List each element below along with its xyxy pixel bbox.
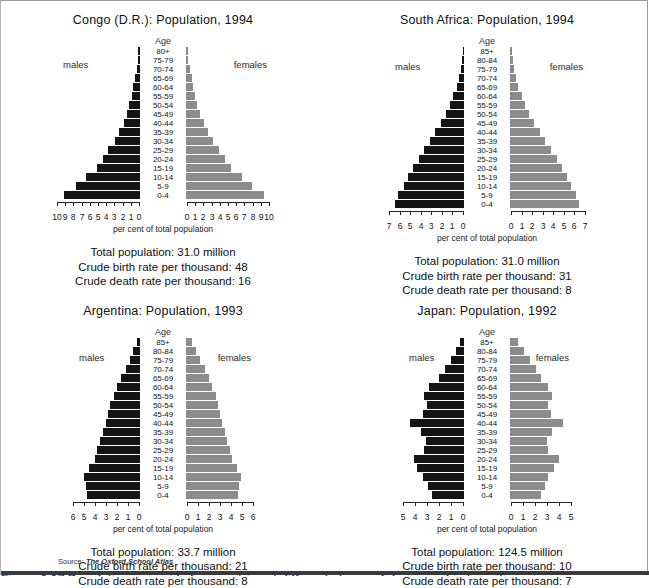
panel-title: Congo (D.R.): Population, 1994: [73, 13, 253, 27]
figure-caption: Figure 1.17 Population pyramids for coun…: [1, 572, 649, 576]
female-bar: [186, 419, 222, 427]
male-bar: [97, 164, 140, 172]
axis-tick-label: 5: [562, 221, 567, 231]
age-group-label: 50-54: [470, 401, 504, 410]
age-group-label: 65-69: [146, 74, 180, 83]
female-bar: [510, 491, 541, 499]
female-half: [186, 374, 252, 383]
female-bar: [510, 173, 567, 181]
female-bar: [186, 110, 200, 118]
male-bar: [133, 83, 140, 91]
axis-tick: [95, 502, 96, 506]
pyramid-row: 55-59: [403, 392, 571, 401]
male-bar: [441, 119, 464, 127]
female-half: [186, 92, 268, 101]
age-group-label: 60-64: [470, 92, 504, 101]
pyramid-row: 0-4: [57, 191, 269, 200]
male-bar: [417, 464, 464, 472]
pyramid-row: 15-19: [57, 164, 269, 173]
pyramid-row: 40-44: [57, 119, 269, 128]
male-half: [58, 74, 140, 83]
axis-tick: [73, 502, 74, 506]
axis-tick-label: 5: [401, 512, 406, 522]
male-bar: [414, 455, 464, 463]
pyramid-body: 85+80-8475-7970-7465-6960-6455-5950-5445…: [403, 338, 571, 500]
male-half: [74, 374, 140, 383]
female-bar: [186, 146, 219, 154]
female-bar: [186, 155, 225, 163]
x-axis: 543210012345per cent of total population: [403, 500, 571, 534]
male-bar: [463, 47, 464, 55]
male-bar: [445, 365, 464, 373]
age-group-label: 35-39: [146, 428, 180, 437]
pyramid-row: 30-34: [403, 437, 571, 446]
age-group-label: 30-34: [470, 146, 504, 155]
pyramid-row: 45-49: [57, 110, 269, 119]
male-bar: [424, 446, 464, 454]
male-half: [390, 164, 464, 173]
male-half: [74, 365, 140, 374]
age-group-label: 85+: [470, 338, 504, 347]
axis-tick: [553, 211, 554, 215]
male-bar: [426, 437, 464, 445]
age-group-label: 80-84: [146, 347, 180, 356]
axis-tick-label: 2: [530, 221, 535, 231]
axis-tick-label: 4: [218, 212, 223, 222]
axis-tick: [543, 211, 544, 215]
stats-block: Total population: 31.0 millionCrude birt…: [402, 254, 571, 298]
pyramid-row: 35-39: [57, 128, 269, 137]
male-half: [74, 410, 140, 419]
pyramid-row: 5-9: [57, 182, 269, 191]
axis-tick-label: 5: [82, 512, 87, 522]
female-bar: [186, 74, 192, 82]
female-half: [186, 383, 252, 392]
axis-tick: [559, 502, 560, 506]
panel-title: Argentina: Population, 1993: [83, 304, 243, 318]
male-bar: [395, 200, 464, 208]
age-group-label: 70-74: [146, 365, 180, 374]
male-half: [404, 401, 464, 410]
male-bar: [423, 473, 464, 481]
male-half: [390, 155, 464, 164]
female-half: [186, 83, 268, 92]
axis-tick: [253, 202, 254, 206]
female-half: [186, 491, 252, 500]
axis-tick: [220, 502, 221, 506]
axis-tick: [511, 211, 512, 215]
female-bar: [186, 446, 230, 454]
female-bar: [186, 137, 213, 145]
male-bar: [419, 155, 464, 163]
male-bar: [64, 191, 140, 199]
male-bar: [86, 482, 140, 490]
axis-tick-label: 3: [210, 212, 215, 222]
axis-tick-label: 5: [226, 212, 231, 222]
male-half: [58, 155, 140, 164]
males-label: males: [409, 352, 434, 363]
pyramid-row: 50-54: [73, 401, 253, 410]
female-half: [510, 47, 584, 56]
axis-tick-label: 9: [63, 212, 68, 222]
axis-tick: [131, 202, 132, 206]
female-half: [510, 110, 584, 119]
source-note: Source: The Oxford School Atlas: [58, 557, 173, 566]
female-half: [510, 83, 584, 92]
pyramid-row: 85+: [403, 338, 571, 347]
female-half: [510, 137, 584, 146]
male-bar: [108, 146, 140, 154]
axis-tick-label: 0: [137, 512, 142, 522]
age-group-label: 0-4: [146, 191, 180, 200]
male-half: [58, 92, 140, 101]
axis-tick: [73, 202, 74, 206]
age-group-label: 45-49: [146, 110, 180, 119]
age-group-label: 85+: [470, 47, 504, 56]
male-bar: [135, 74, 140, 82]
x-axis: 109876543210012345678910per cent of tota…: [57, 200, 269, 234]
pyramid-row: 5-9: [73, 482, 253, 491]
source-prefix: Source:: [58, 557, 84, 566]
age-group-label: 65-69: [470, 374, 504, 383]
axis-tick: [114, 202, 115, 206]
female-bar: [510, 56, 513, 64]
pyramid-row: 35-39: [403, 428, 571, 437]
axis-tick-label: 4: [229, 512, 234, 522]
female-half: [510, 446, 570, 455]
